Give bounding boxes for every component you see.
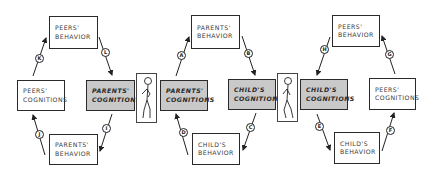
child-stick-figure: [277, 73, 298, 122]
box-label-line1: CHILD'S: [340, 140, 379, 149]
mid-parents-behavior-box: PARENTS' BEHAVIOR: [191, 15, 240, 49]
right-childs-behavior-box: CHILD'S BEHAVIOR: [334, 132, 380, 164]
box-label-line1: PARENTS': [55, 141, 97, 150]
box-label-line2: BEHAVIOR: [197, 32, 239, 41]
arrow-label-j: J: [35, 130, 44, 139]
box-label-line2: BEHAVIOR: [340, 148, 379, 157]
right-peers-behavior-box: PEERS' BEHAVIOR: [332, 15, 380, 47]
box-label-line1: PEERS': [23, 87, 64, 96]
box-label-line2: BEHAVIOR: [198, 149, 239, 158]
box-label-line1: PARENTS': [92, 87, 134, 96]
right-peers-cognitions-box: PEERS' COGNITIONS: [369, 78, 416, 110]
box-label-line2: COGNITIONS: [23, 96, 64, 105]
box-label-line2: COGNITIONS: [306, 95, 347, 104]
box-label-line1: PEERS': [338, 23, 379, 32]
mid-childs-cognitions-box: CHILD'S COGNITIONS: [228, 79, 276, 110]
mid-parents-cognitions-box: PARENTS' COGNITIONS: [160, 80, 208, 111]
box-label-line2: COGNITIONS: [234, 95, 275, 104]
left-peers-behavior-box: PEERS' BEHAVIOR: [49, 16, 98, 49]
box-label-line1: PEERS': [375, 86, 415, 95]
parent-stick-figure: [136, 73, 157, 123]
arrow-label-b: B: [244, 49, 253, 58]
arrow-label-h: H: [320, 45, 329, 54]
box-label-line2: COGNITIONS: [375, 94, 415, 103]
arrow-label-g: G: [385, 50, 394, 59]
stick-figure-icon: [137, 74, 156, 122]
box-label-line1: CHILD'S: [234, 86, 275, 95]
arrow-label-d: D: [179, 128, 188, 137]
box-label-line1: CHILD'S: [198, 141, 239, 150]
left-parents-cognitions-box: PARENTS' COGNITIONS: [86, 80, 135, 111]
arrow-label-i: I: [102, 124, 111, 133]
box-label-line2: COGNITIONS: [166, 96, 207, 105]
left-peers-cognitions-box: PEERS' COGNITIONS: [17, 80, 65, 111]
box-label-line1: PARENTS': [166, 87, 207, 96]
arrow-label-a: A: [177, 51, 186, 60]
box-label-line2: BEHAVIOR: [338, 31, 379, 40]
stick-figure-icon: [278, 74, 297, 121]
arrow-label-c: C: [246, 123, 255, 132]
box-label-line1: CHILD'S: [306, 86, 347, 95]
arrow-label-k: K: [35, 54, 44, 63]
box-label-line1: PEERS': [55, 24, 97, 33]
box-label-line2: BEHAVIOR: [55, 33, 97, 42]
right-childs-cognitions-box: CHILD'S COGNITIONS: [300, 79, 348, 110]
mid-childs-behavior-box: CHILD'S BEHAVIOR: [192, 133, 240, 165]
left-parents-behavior-box: PARENTS' BEHAVIOR: [49, 134, 98, 165]
box-label-line2: COGNITIONS: [92, 96, 134, 105]
arrow-label-e: E: [315, 122, 324, 131]
box-label-line2: BEHAVIOR: [55, 150, 97, 159]
box-label-line1: PARENTS': [197, 24, 239, 33]
arrow-label-f: F: [386, 126, 395, 135]
arrow-label-l: L: [101, 48, 110, 57]
